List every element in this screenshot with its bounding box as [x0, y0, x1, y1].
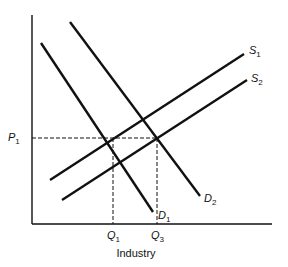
- x-axis-label: Industry: [116, 247, 156, 259]
- q1-label: Q1: [107, 229, 121, 244]
- d1-label: D1: [158, 209, 171, 224]
- p1-label: P1: [8, 131, 20, 146]
- s1-supply-curve: [50, 54, 244, 180]
- s1-label: S1: [249, 44, 261, 59]
- axes: [32, 15, 272, 224]
- d2-demand-curve: [70, 22, 200, 196]
- supply-demand-diagram: D1D2S1S2P1Q1Q3Industry: [0, 0, 288, 267]
- q3-label: Q3: [151, 229, 165, 244]
- d1-demand-curve: [41, 43, 153, 212]
- s2-supply-curve: [62, 80, 247, 200]
- curves: [41, 22, 247, 212]
- s2-label: S2: [251, 72, 263, 87]
- d2-label: D2: [204, 192, 217, 207]
